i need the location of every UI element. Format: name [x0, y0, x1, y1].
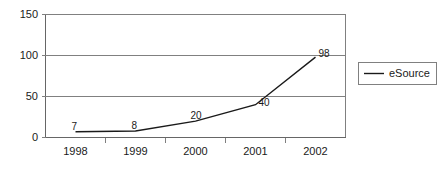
x-tick-label-2000: 2000 — [183, 145, 207, 157]
x-tick-label-1998: 1998 — [63, 145, 87, 157]
data-label-1999: 8 — [132, 120, 138, 131]
y-tick-label-150: 150 — [20, 8, 38, 20]
legend: eSource — [359, 63, 437, 85]
y-tick-label-100: 100 — [20, 49, 38, 61]
x-tick-label-2002: 2002 — [303, 145, 327, 157]
x-tick-label-2001: 2001 — [243, 145, 267, 157]
y-tick-label-50: 50 — [26, 90, 38, 102]
y-tick-label-0: 0 — [32, 131, 38, 143]
x-tick-label-1999: 1999 — [123, 145, 147, 157]
line-chart: 150 100 50 0 1998 1999 2000 2001 2002 7 … — [0, 0, 442, 169]
chart-container: 150 100 50 0 1998 1999 2000 2001 2002 7 … — [0, 0, 442, 169]
data-label-2001: 40 — [259, 97, 271, 108]
legend-label-esource: eSource — [389, 67, 430, 79]
data-label-2002: 98 — [319, 48, 331, 59]
data-label-1998: 7 — [72, 121, 78, 132]
data-label-2000: 20 — [191, 110, 203, 121]
